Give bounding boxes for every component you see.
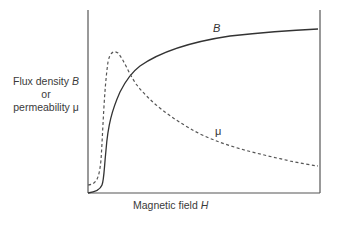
y-label-line1: Flux density bbox=[13, 75, 72, 87]
y-label-line2: or bbox=[6, 88, 86, 101]
y-label-var-b: B bbox=[72, 75, 79, 87]
b-curve-label: B bbox=[213, 22, 220, 34]
mu-curve-label: μ bbox=[215, 125, 221, 137]
x-label-var-h: H bbox=[201, 199, 209, 211]
y-label-line3: permeability bbox=[13, 101, 73, 113]
x-label-text: Magnetic field bbox=[133, 199, 201, 211]
b-curve bbox=[88, 29, 318, 193]
y-label-var-mu: μ bbox=[73, 101, 79, 113]
mu-curve bbox=[88, 52, 318, 185]
y-axis-label: Flux density B or permeability μ bbox=[6, 75, 86, 114]
x-axis-label: Magnetic field H bbox=[133, 199, 208, 211]
